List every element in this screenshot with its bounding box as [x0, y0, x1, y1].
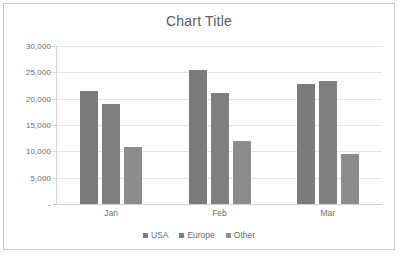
bar-usa-jan[interactable] — [80, 91, 98, 204]
y-axis-tick-label: 10,000 — [26, 147, 51, 156]
chart-title[interactable]: Chart Title — [4, 13, 394, 29]
legend-item-europe[interactable]: Europe — [179, 230, 214, 240]
gridline — [57, 204, 382, 205]
legend-item-other[interactable]: Other — [226, 230, 255, 240]
plot-area[interactable] — [57, 46, 382, 204]
bar-other-feb[interactable] — [233, 141, 251, 204]
gridline — [57, 72, 382, 73]
y-axis-tick-label: - — [48, 200, 51, 209]
legend-label: Other — [234, 230, 255, 240]
legend-swatch-icon — [226, 233, 231, 238]
y-axis-tick-label: 5,000 — [30, 173, 51, 182]
y-axis-tick-label: 25,000 — [26, 68, 51, 77]
x-axis: JanFebMar — [57, 208, 382, 222]
bar-europe-jan[interactable] — [102, 104, 120, 204]
legend-swatch-icon — [179, 233, 184, 238]
y-axis-tick-label: 15,000 — [26, 121, 51, 130]
x-axis-category-label: Jan — [104, 208, 118, 218]
bar-other-jan[interactable] — [124, 147, 142, 204]
chart-plot-wrapper: Chart Title -5,00010,00015,00020,00025,0… — [4, 4, 394, 249]
y-axis: -5,00010,00015,00020,00025,00030,000 — [4, 46, 51, 204]
legend-label: USA — [151, 230, 168, 240]
y-axis-tick-label: 20,000 — [26, 94, 51, 103]
chart-legend[interactable]: USAEuropeOther — [4, 230, 394, 240]
legend-label: Europe — [187, 230, 214, 240]
x-axis-category-label: Mar — [321, 208, 336, 218]
bar-usa-feb[interactable] — [189, 70, 207, 204]
legend-item-usa[interactable]: USA — [143, 230, 168, 240]
x-axis-category-label: Feb — [212, 208, 227, 218]
chart-container[interactable]: Chart Title -5,00010,00015,00020,00025,0… — [3, 3, 395, 250]
bar-europe-feb[interactable] — [211, 93, 229, 204]
bar-europe-mar[interactable] — [319, 81, 337, 204]
gridline — [57, 46, 382, 47]
bar-usa-mar[interactable] — [297, 84, 315, 204]
y-axis-tick-label: 30,000 — [26, 42, 51, 51]
legend-swatch-icon — [143, 233, 148, 238]
bar-other-mar[interactable] — [341, 154, 359, 204]
